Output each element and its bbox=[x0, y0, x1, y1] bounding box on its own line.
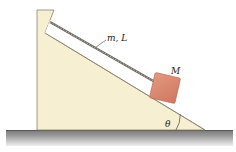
rope-label: m, L bbox=[107, 33, 127, 43]
ground bbox=[6, 130, 233, 146]
angle-label: θ bbox=[165, 119, 171, 129]
block-label: M bbox=[170, 66, 181, 76]
rope-label-leader bbox=[96, 40, 106, 47]
incline-diagram: m, L M θ bbox=[0, 0, 236, 152]
block bbox=[149, 72, 180, 103]
